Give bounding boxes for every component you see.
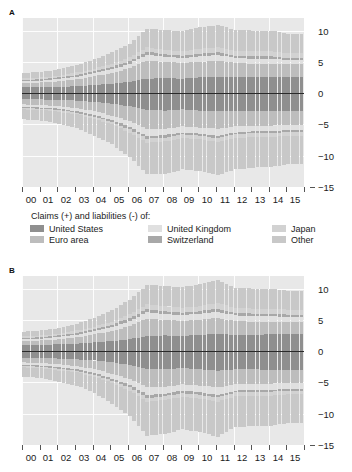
bar-segment xyxy=(295,111,299,125)
bar-segment xyxy=(247,308,251,313)
bar-segment xyxy=(282,93,286,111)
x-axis-tick-label: 06 xyxy=(132,452,143,463)
bar-segment xyxy=(251,93,255,111)
bar-segment xyxy=(62,81,66,87)
bar-segment xyxy=(189,398,193,431)
bar-segment xyxy=(238,58,242,63)
bar-segment xyxy=(62,75,66,77)
x-axis-tick xyxy=(198,445,199,450)
bar-segment xyxy=(48,335,52,337)
bar-segment xyxy=(141,109,145,127)
bar-segment xyxy=(167,141,171,173)
bar-column xyxy=(115,18,119,187)
bar-segment xyxy=(229,62,233,77)
bar-segment xyxy=(295,77,299,93)
bar-column xyxy=(220,18,224,187)
bar-segment xyxy=(167,57,171,62)
bar-segment xyxy=(273,64,277,77)
bar-segment xyxy=(207,26,211,48)
bar-segment xyxy=(269,137,273,167)
bar-column xyxy=(256,276,260,445)
bar-segment xyxy=(251,351,255,369)
bar-segment xyxy=(216,351,220,370)
bar-segment xyxy=(216,111,220,129)
bar-segment xyxy=(159,336,163,351)
bar-segment xyxy=(238,288,242,308)
bar-segment xyxy=(234,58,238,63)
bar-segment xyxy=(145,47,149,51)
x-axis-tick-label: 05 xyxy=(114,194,125,205)
legend-item: Japan xyxy=(272,224,352,234)
bar-segment xyxy=(247,51,251,56)
legend-swatch-icon xyxy=(30,236,44,243)
bar-segment xyxy=(295,64,299,77)
bar-segment xyxy=(79,64,83,72)
bar-segment xyxy=(251,111,255,126)
bar-segment xyxy=(97,351,101,361)
bar-segment xyxy=(260,64,264,77)
bar-segment xyxy=(251,77,255,93)
bar-segment xyxy=(101,103,105,114)
bar-segment xyxy=(150,142,154,174)
bar-segment xyxy=(300,291,304,310)
bar-segment xyxy=(176,312,180,315)
bar-segment xyxy=(198,314,202,320)
bar-segment xyxy=(269,31,273,52)
bar-segment xyxy=(264,77,268,93)
bar-segment xyxy=(62,371,66,383)
bar-segment xyxy=(291,60,295,64)
bar-segment xyxy=(172,93,176,110)
bar-segment xyxy=(291,322,295,334)
bar-segment xyxy=(44,351,48,358)
bar-segment xyxy=(207,313,211,319)
bar-segment xyxy=(172,369,176,386)
bar-segment xyxy=(93,85,97,93)
bar-segment xyxy=(291,370,295,383)
bar-segment xyxy=(106,326,110,328)
bar-segment xyxy=(238,369,242,384)
bar-segment xyxy=(176,307,180,312)
bar-segment xyxy=(225,111,229,128)
bar-segment xyxy=(132,351,136,366)
bar-segment xyxy=(159,387,163,394)
bar-segment xyxy=(145,61,149,79)
bar-segment xyxy=(70,100,74,107)
bar-column xyxy=(44,18,48,187)
bar-segment xyxy=(159,56,163,61)
bar-segment xyxy=(119,387,123,410)
bar-segment xyxy=(269,93,273,111)
bar-column xyxy=(167,276,171,445)
bar-segment xyxy=(269,51,273,56)
bar-segment xyxy=(75,93,79,101)
bar-segment xyxy=(132,296,136,312)
bar-column xyxy=(101,18,105,187)
bar-segment xyxy=(106,123,110,142)
x-axis-tick-label: 07 xyxy=(149,452,160,463)
bar-column xyxy=(154,18,158,187)
bar-segment xyxy=(286,315,290,318)
bar-column xyxy=(150,276,154,445)
bar-segment xyxy=(211,61,215,77)
bar-segment xyxy=(31,72,35,77)
bar-segment xyxy=(189,369,193,385)
bar-segment xyxy=(220,48,224,53)
bar-segment xyxy=(84,62,88,70)
bar-segment xyxy=(181,351,185,368)
bar-segment xyxy=(194,307,198,312)
bar-segment xyxy=(75,335,79,338)
bar-segment xyxy=(286,58,290,60)
bar-segment xyxy=(145,304,149,309)
bar-segment xyxy=(211,304,215,309)
bar-segment xyxy=(141,50,145,54)
bar-segment xyxy=(194,314,198,320)
bar-segment xyxy=(35,83,39,88)
bar-segment xyxy=(145,319,149,337)
bar-segment xyxy=(203,370,207,386)
bar-segment xyxy=(88,102,92,111)
bar-segment xyxy=(119,351,123,364)
bar-column xyxy=(269,276,273,445)
bar-segment xyxy=(203,283,207,305)
bar-column xyxy=(282,18,286,187)
bar-segment xyxy=(291,317,295,322)
bar-column xyxy=(84,18,88,187)
